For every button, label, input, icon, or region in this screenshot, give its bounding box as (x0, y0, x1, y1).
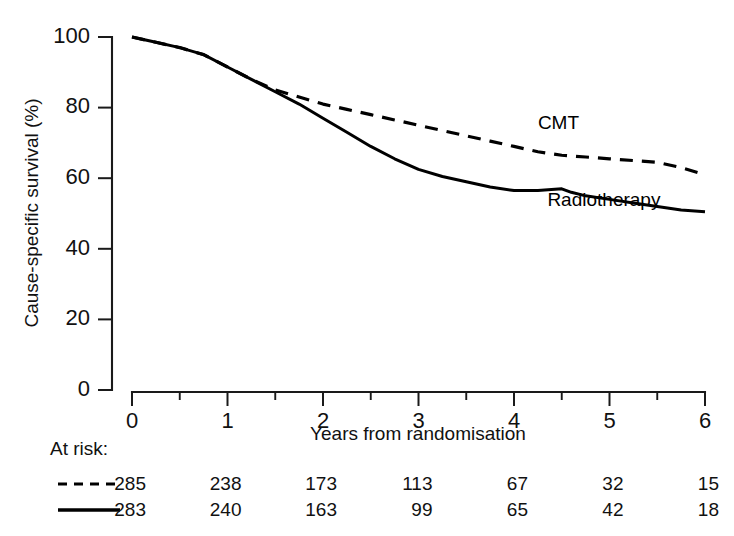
survival-chart-figure: Cause-specific survival (%) 020406080100… (0, 0, 734, 536)
at-risk-value: 99 (411, 499, 432, 520)
at-risk-value: 163 (305, 499, 337, 520)
series-label-radiotherapy: Radiotherapy (547, 189, 661, 210)
at-risk-value: 238 (210, 473, 242, 494)
series-label-cmt: CMT (538, 112, 580, 133)
at-risk-value: 240 (210, 499, 242, 520)
y-tick-label: 40 (66, 235, 90, 260)
chart-canvas: Cause-specific survival (%) 020406080100… (0, 0, 734, 536)
y-tick-label: 100 (53, 23, 90, 48)
at-risk-value: 15 (698, 473, 719, 494)
at-risk-value: 18 (698, 499, 719, 520)
series-line-cmt (132, 37, 705, 175)
at-risk-value: 67 (507, 473, 528, 494)
y-axis-ticks: 020406080100 (53, 23, 112, 401)
x-tick-label: 0 (126, 408, 138, 433)
y-tick-label: 60 (66, 164, 90, 189)
at-risk-table: 28523817311367321528324016399654218 (58, 473, 719, 520)
y-tick-label: 0 (78, 376, 90, 401)
at-risk-value: 283 (114, 499, 146, 520)
at-risk-value: 42 (602, 499, 623, 520)
at-risk-row: 285238173113673215 (58, 473, 719, 494)
x-tick-label: 6 (699, 408, 711, 433)
at-risk-value: 65 (507, 499, 528, 520)
at-risk-value: 32 (602, 473, 623, 494)
y-tick-label: 80 (66, 93, 90, 118)
y-axis-title: Cause-specific survival (%) (21, 98, 42, 327)
series-line-radiotherapy (132, 37, 705, 212)
at-risk-row: 28324016399654218 (58, 499, 719, 520)
x-axis-title: Years from randomisation (310, 423, 526, 444)
at-risk-value: 285 (114, 473, 146, 494)
at-risk-value: 113 (402, 473, 432, 494)
at-risk-label: At risk: (50, 438, 108, 459)
y-tick-label: 20 (66, 305, 90, 330)
at-risk-value: 173 (305, 473, 337, 494)
x-tick-label: 5 (603, 408, 615, 433)
x-tick-label: 1 (221, 408, 233, 433)
